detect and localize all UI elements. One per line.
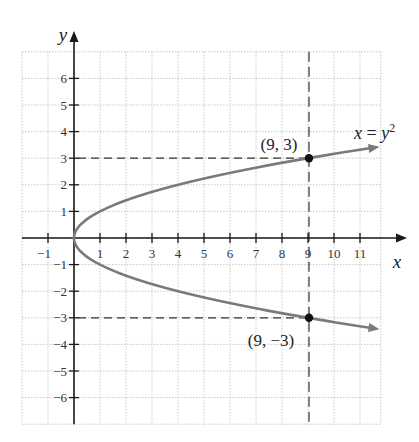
y-tick-label: 3: [61, 151, 68, 166]
point-label-9-neg3: (9, −3): [248, 331, 294, 350]
y-tick-label: −6: [53, 390, 67, 405]
y-tick-label: −4: [53, 337, 67, 352]
highlighted-point: [305, 154, 313, 162]
x-tick-label: −1: [37, 246, 51, 261]
parabola-graph: −11234567891011654321−1−2−3−4−5−6xy(9, 3…: [0, 0, 419, 442]
x-tick-label: 3: [149, 246, 156, 261]
equation-label: x = y2: [353, 121, 395, 143]
point-label-9-3: (9, 3): [261, 135, 298, 154]
x-tick-label: 4: [175, 246, 182, 261]
y-tick-label: 6: [61, 71, 68, 86]
highlighted-point: [305, 314, 313, 322]
axes: [22, 31, 407, 424]
x-tick-label: 1: [97, 246, 104, 261]
x-tick-label: 8: [279, 246, 286, 261]
x-tick-label: 2: [123, 246, 130, 261]
y-tick-label: −5: [53, 364, 67, 379]
y-tick-label: 1: [61, 204, 68, 219]
y-tick-label: −2: [53, 284, 67, 299]
y-tick-label: −3: [53, 310, 67, 325]
y-tick-label: −1: [53, 257, 67, 272]
x-tick-label: 7: [253, 246, 260, 261]
x-tick-label: 9: [305, 246, 312, 261]
y-tick-label: 5: [61, 98, 68, 113]
guide-lines: [78, 52, 309, 426]
y-tick-label: 4: [61, 124, 68, 139]
y-tick-label: 2: [61, 177, 68, 192]
x-tick-label: 6: [227, 246, 234, 261]
x-tick-label: 10: [328, 246, 341, 261]
x-axis-label: x: [392, 251, 402, 272]
x-axis-arrow-icon: [396, 234, 407, 243]
x-tick-label: 5: [201, 246, 208, 261]
curve-arrow-icon: [368, 144, 380, 153]
x-tick-label: 11: [354, 246, 367, 261]
y-axis-label: y: [57, 24, 68, 45]
curve-arrow-icon: [368, 323, 380, 332]
y-axis-arrow-icon: [70, 31, 79, 42]
